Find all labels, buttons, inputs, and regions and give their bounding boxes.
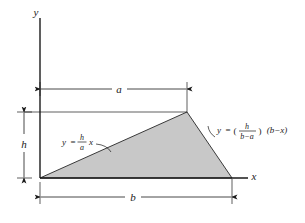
equation-left-numerator: h — [80, 133, 84, 142]
x-axis-label: x — [251, 170, 257, 182]
equation-right-y: y — [216, 125, 221, 135]
equation-right-close-paren: ) — [259, 126, 262, 136]
equation-right-factor: (b−x) — [267, 125, 288, 135]
equation-right-open-paren: ( — [234, 126, 237, 136]
y-axis-label: y — [33, 6, 39, 18]
equation-right-group: y = ( h b−a ) (b−x) — [208, 122, 287, 141]
dimension-b-label: b — [130, 191, 136, 203]
dimension-h-label: h — [21, 138, 27, 150]
equation-right-equals: = — [225, 125, 230, 135]
geometry-diagram: y x a h b y = h a x — [0, 0, 305, 223]
equation-left-denominator: a — [80, 143, 84, 152]
equation-right-denominator: b−a — [240, 132, 253, 141]
equation-right-leader-line — [208, 126, 215, 137]
equation-left-factor: x — [88, 137, 93, 147]
equation-left-y: y — [61, 137, 66, 147]
figure-container: y x a h b y = h a x — [0, 0, 305, 223]
equation-left-equals: = — [70, 137, 75, 147]
dimension-a-label: a — [116, 83, 122, 95]
equation-right-numerator: h — [245, 122, 249, 131]
shaded-triangle — [40, 112, 232, 178]
